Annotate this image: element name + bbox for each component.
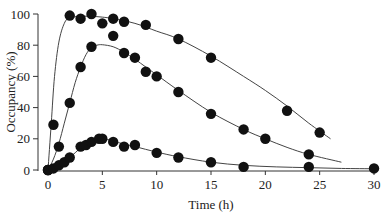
y-axis-label: Occupancy (%) [3, 51, 18, 132]
data-point-medium [54, 141, 64, 151]
data-point-medium [119, 48, 129, 58]
fit-curve-medium [48, 45, 341, 170]
data-point-high [97, 18, 107, 28]
y-tick-label: 100 [11, 7, 31, 22]
data-point-low [304, 162, 314, 172]
data-point-high [314, 127, 324, 137]
data-point-low [119, 141, 129, 151]
x-tick-label: 0 [45, 177, 52, 192]
occupancy-chart: 051015202530020406080100 Time (h) Occupa… [0, 0, 388, 217]
data-point-low [369, 163, 379, 173]
data-points [43, 9, 379, 175]
data-point-medium [86, 42, 96, 52]
data-point-high [141, 20, 151, 30]
x-axis-label: Time (h) [188, 197, 233, 212]
data-point-low [173, 152, 183, 162]
data-point-high [75, 13, 85, 23]
data-point-low [65, 152, 75, 162]
data-point-medium [173, 87, 183, 97]
data-point-high [282, 106, 292, 116]
data-point-medium [304, 149, 314, 159]
y-tick-label: 60 [17, 69, 30, 84]
x-tick-label: 30 [368, 177, 381, 192]
y-tick-label: 0 [24, 163, 31, 178]
data-point-medium [206, 109, 216, 119]
data-point-medium [151, 71, 161, 81]
data-point-high [86, 9, 96, 19]
data-point-medium [238, 124, 248, 134]
data-point-medium [130, 52, 140, 62]
data-point-medium [260, 134, 270, 144]
fit-curves [48, 16, 374, 170]
x-tick-label: 25 [313, 177, 326, 192]
data-point-medium [108, 31, 118, 41]
data-point-high [65, 10, 75, 20]
x-tick-label: 15 [205, 177, 218, 192]
data-point-low [130, 140, 140, 150]
data-point-high [48, 120, 58, 130]
data-point-low [97, 134, 107, 144]
x-tick-label: 5 [99, 177, 106, 192]
data-point-high [119, 17, 129, 27]
data-point-medium [141, 67, 151, 77]
data-point-high [173, 34, 183, 44]
data-point-low [108, 137, 118, 147]
data-point-low [238, 162, 248, 172]
data-point-low [206, 157, 216, 167]
y-tick-label: 80 [17, 38, 30, 53]
data-point-medium [75, 62, 85, 72]
y-tick-label: 40 [17, 100, 30, 115]
x-tick-label: 10 [150, 177, 163, 192]
data-point-high [108, 13, 118, 23]
y-tick-label: 20 [17, 131, 30, 146]
data-point-high [206, 52, 216, 62]
data-point-medium [65, 98, 75, 108]
x-tick-label: 20 [259, 177, 272, 192]
data-point-low [151, 148, 161, 158]
